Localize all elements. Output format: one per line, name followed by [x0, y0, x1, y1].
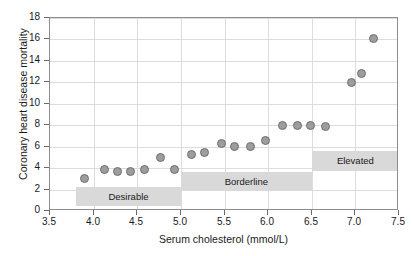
y-tick-label: 6 — [34, 141, 40, 151]
gridline-vertical — [94, 18, 95, 209]
data-point — [357, 69, 366, 78]
band-borderline: Borderline — [181, 172, 312, 191]
data-point — [217, 139, 226, 148]
data-point — [126, 167, 135, 176]
gridline-horizontal — [50, 18, 397, 19]
x-tick-label: 6.5 — [304, 216, 318, 227]
data-point — [261, 136, 270, 145]
gridline-horizontal — [50, 61, 397, 62]
data-point — [293, 121, 302, 130]
x-tick-label: 4.5 — [129, 216, 143, 227]
x-tick-mark — [311, 210, 312, 215]
data-point — [200, 148, 209, 157]
y-tick-label: 2 — [34, 184, 40, 194]
band-label: Borderline — [225, 176, 268, 187]
plot-area: DesirableBorderlineElevated — [49, 17, 398, 210]
data-point — [100, 165, 109, 174]
gridline-horizontal — [50, 125, 397, 126]
y-axis-title: Coronary heart disease mortality — [17, 0, 29, 209]
chart-figure: Coronary heart disease mortality 0246810… — [0, 0, 412, 256]
gridline-horizontal — [50, 82, 397, 83]
x-tick-mark — [224, 210, 225, 215]
x-tick-label: 7.5 — [391, 216, 405, 227]
x-tick-mark — [398, 210, 399, 215]
data-point — [306, 121, 315, 130]
data-point — [140, 165, 149, 174]
y-tick-label: 12 — [29, 76, 40, 86]
data-point — [369, 34, 378, 43]
gridline-vertical — [312, 18, 313, 209]
band-label: Desirable — [108, 191, 148, 202]
x-tick-label: 5.0 — [173, 216, 187, 227]
y-tick-label: 4 — [34, 162, 40, 172]
data-point — [230, 142, 239, 151]
x-tick-mark — [136, 210, 137, 215]
x-tick-mark — [267, 210, 268, 215]
x-tick-label: 4.0 — [86, 216, 100, 227]
x-tick-label: 5.5 — [217, 216, 231, 227]
data-point — [278, 121, 287, 130]
y-tick-label: 10 — [29, 98, 40, 108]
data-point — [187, 150, 196, 159]
data-point — [321, 122, 330, 131]
data-point — [170, 165, 179, 174]
band-desirable: Desirable — [76, 187, 181, 206]
x-tick-mark — [180, 210, 181, 215]
y-tick-label: 0 — [34, 205, 40, 215]
x-tick-label: 3.5 — [42, 216, 56, 227]
x-axis-title: Serum cholesterol (mmol/L) — [49, 233, 398, 245]
data-point — [156, 153, 165, 162]
data-point — [246, 142, 255, 151]
band-elevated: Elevated — [312, 151, 398, 171]
y-tick-label: 8 — [34, 119, 40, 129]
x-tick-mark — [93, 210, 94, 215]
y-tick-label: 16 — [29, 33, 40, 43]
gridline-horizontal — [50, 104, 397, 105]
gridline-vertical — [137, 18, 138, 209]
y-tick-label: 14 — [29, 55, 40, 65]
x-tick-mark — [354, 210, 355, 215]
x-tick-label: 7.0 — [347, 216, 361, 227]
gridline-vertical — [355, 18, 356, 209]
x-tick-mark — [49, 210, 50, 215]
y-tick-label: 18 — [29, 12, 40, 22]
data-point — [80, 174, 89, 183]
band-label: Elevated — [337, 155, 374, 166]
gridline-horizontal — [50, 39, 397, 40]
x-tick-label: 6.0 — [260, 216, 274, 227]
data-point — [113, 167, 122, 176]
